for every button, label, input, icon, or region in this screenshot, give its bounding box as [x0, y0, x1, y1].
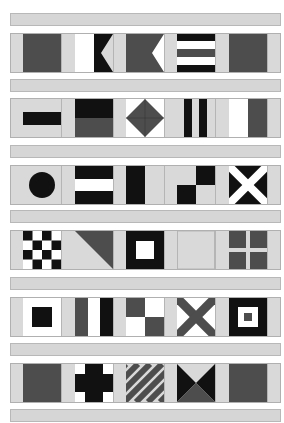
- flag-grey-diagonal-triangle-icon: [75, 231, 113, 269]
- divider: [215, 34, 216, 72]
- divider: [267, 99, 268, 137]
- divider: [164, 166, 165, 204]
- rail-bar: [10, 13, 281, 26]
- flag-row: [10, 165, 281, 205]
- divider: [215, 166, 216, 204]
- divider: [267, 34, 268, 72]
- flag-black-square-on-white-icon: [23, 298, 61, 336]
- divider: [215, 99, 216, 137]
- divider: [113, 99, 114, 137]
- flag-solid-light-icon: [177, 231, 215, 269]
- rail-bar: [10, 409, 281, 422]
- divider: [164, 298, 165, 336]
- flag-black-hourglass-icon: [177, 364, 215, 402]
- flag-checkerboard-icon: [23, 231, 61, 269]
- divider: [113, 298, 114, 336]
- flag-row: [10, 230, 281, 270]
- divider: [267, 298, 268, 336]
- flag-light-cross-on-grey-icon: [229, 231, 267, 269]
- divider: [267, 364, 268, 402]
- divider: [61, 298, 62, 336]
- flag-black-bar-on-light-icon: [23, 99, 61, 137]
- flag-black-white-black-horizontal-icon: [75, 166, 113, 204]
- divider: [164, 99, 165, 137]
- divider: [267, 231, 268, 269]
- flag-white-square-on-black-icon: [126, 231, 164, 269]
- divider: [113, 34, 114, 72]
- flag-grey-white-black-vertical-icon: [75, 298, 113, 336]
- flag-solid-grey-icon: [23, 364, 61, 402]
- divider: [113, 364, 114, 402]
- flag-nested-squares-icon: [229, 298, 267, 336]
- flag-solid-grey-icon: [229, 34, 267, 72]
- flag-grey-white-swallowtail-icon: [126, 34, 164, 72]
- flag-row: [10, 363, 281, 403]
- flag-grey-saltire-on-white-icon: [177, 298, 215, 336]
- divider: [164, 364, 165, 402]
- flag-black-vertical-stripes-icon: [177, 99, 215, 137]
- divider: [267, 166, 268, 204]
- flag-white-black-swallowtail-icon: [75, 34, 113, 72]
- flag-black-light-vertical-icon: [126, 166, 164, 204]
- flag-grey-white-quarters-icon: [126, 298, 164, 336]
- divider: [164, 34, 165, 72]
- rail-bar: [10, 145, 281, 158]
- divider: [215, 364, 216, 402]
- flag-row: [10, 98, 281, 138]
- divider: [61, 34, 62, 72]
- rail-bar: [10, 79, 281, 92]
- flag-white-saltire-on-black-icon: [229, 166, 267, 204]
- flag-row: [10, 297, 281, 337]
- flag-solid-grey-icon: [23, 34, 61, 72]
- divider: [61, 231, 62, 269]
- flag-diagonal-stripes-icon: [126, 364, 164, 402]
- divider: [215, 231, 216, 269]
- divider: [61, 166, 62, 204]
- flag-checker-quarters-icon: [177, 166, 215, 204]
- flag-black-white-horizontal-stripes-icon: [177, 34, 215, 72]
- divider: [61, 364, 62, 402]
- divider: [61, 99, 62, 137]
- flag-black-circle-icon: [23, 166, 61, 204]
- divider: [215, 298, 216, 336]
- flag-black-over-grey-icon: [75, 99, 113, 137]
- rail-bar: [10, 210, 281, 223]
- divider: [164, 231, 165, 269]
- divider: [113, 166, 114, 204]
- rail-bar: [10, 277, 281, 290]
- flag-black-cross-on-white-icon: [75, 364, 113, 402]
- flag-grey-diamond-icon: [126, 99, 164, 137]
- flag-solid-grey-icon: [229, 364, 267, 402]
- divider: [113, 231, 114, 269]
- flag-row: [10, 33, 281, 73]
- rail-bar: [10, 343, 281, 356]
- flag-white-grey-vertical-icon: [229, 99, 267, 137]
